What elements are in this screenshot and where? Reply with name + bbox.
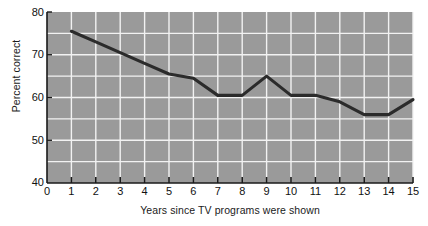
x-tick-label: 15 [403, 186, 423, 197]
x-tick-label: 1 [61, 186, 81, 197]
x-tick-label: 11 [305, 186, 325, 197]
x-tick-label: 3 [110, 186, 130, 197]
x-tick-label: 8 [232, 186, 252, 197]
x-tick-label: 12 [330, 186, 350, 197]
x-tick-label: 0 [37, 186, 57, 197]
x-tick-label: 14 [379, 186, 399, 197]
x-tick-label: 6 [183, 186, 203, 197]
x-tick-label: 5 [159, 186, 179, 197]
x-tick-label: 9 [257, 186, 277, 197]
x-tick-label: 10 [281, 186, 301, 197]
x-axis-title: Years since TV programs were shown [47, 204, 413, 216]
x-tick-label: 2 [86, 186, 106, 197]
x-tick-label: 13 [354, 186, 374, 197]
chart-container: Percent correct 80 70 60 50 40 012345678… [0, 0, 428, 226]
x-tick-label: 4 [135, 186, 155, 197]
x-tick-label: 7 [208, 186, 228, 197]
